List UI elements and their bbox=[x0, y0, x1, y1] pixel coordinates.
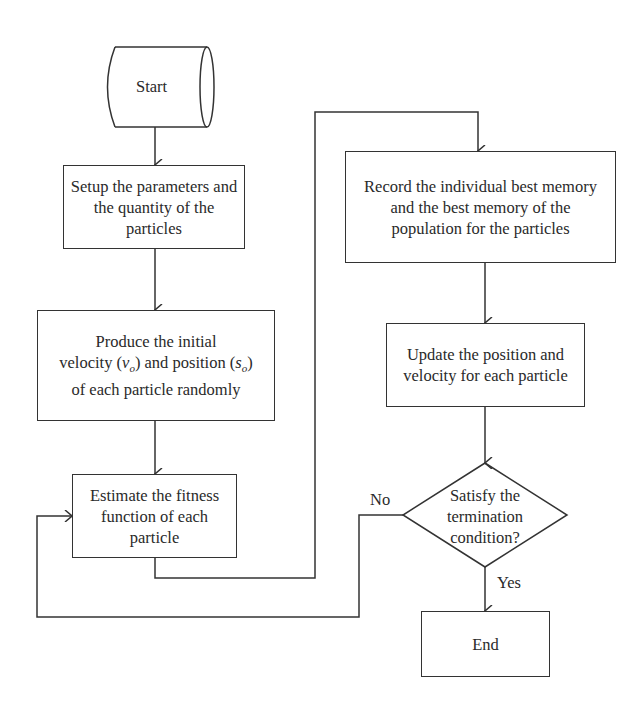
setup-label: Setup the parameters and the quantity of… bbox=[68, 176, 240, 239]
termination-decision-node: Satisfy the termination condition? bbox=[425, 485, 545, 548]
start-cylinder-end bbox=[200, 47, 214, 127]
no-edge-label: No bbox=[370, 490, 390, 510]
setup-parameters-node: Setup the parameters and the quantity of… bbox=[63, 165, 245, 249]
update-label: Update the position and velocity for eac… bbox=[391, 344, 580, 386]
record-best-memory-node: Record the individual best memory and th… bbox=[345, 151, 616, 263]
start-node: Start bbox=[136, 77, 167, 97]
decision-line-3: condition? bbox=[425, 527, 545, 548]
produce-line-3: of each particle randomly bbox=[71, 379, 240, 400]
end-node: End bbox=[421, 611, 550, 677]
update-position-velocity-node: Update the position and velocity for eac… bbox=[386, 323, 585, 407]
produce-initial-node: Produce the initial velocity (vo) and po… bbox=[37, 310, 275, 421]
decision-line-1: Satisfy the bbox=[425, 485, 545, 506]
produce-line-1: Produce the initial bbox=[96, 331, 217, 352]
record-label: Record the individual best memory and th… bbox=[360, 176, 601, 239]
produce-line-2: velocity (vo) and position (so) bbox=[59, 352, 252, 379]
estimate-label: Estimate the fitness function of each pa… bbox=[77, 485, 232, 548]
end-label: End bbox=[472, 634, 499, 655]
yes-edge-label: Yes bbox=[497, 573, 521, 593]
start-label: Start bbox=[136, 77, 167, 96]
decision-line-2: termination bbox=[425, 506, 545, 527]
estimate-fitness-node: Estimate the fitness function of each pa… bbox=[72, 474, 237, 558]
